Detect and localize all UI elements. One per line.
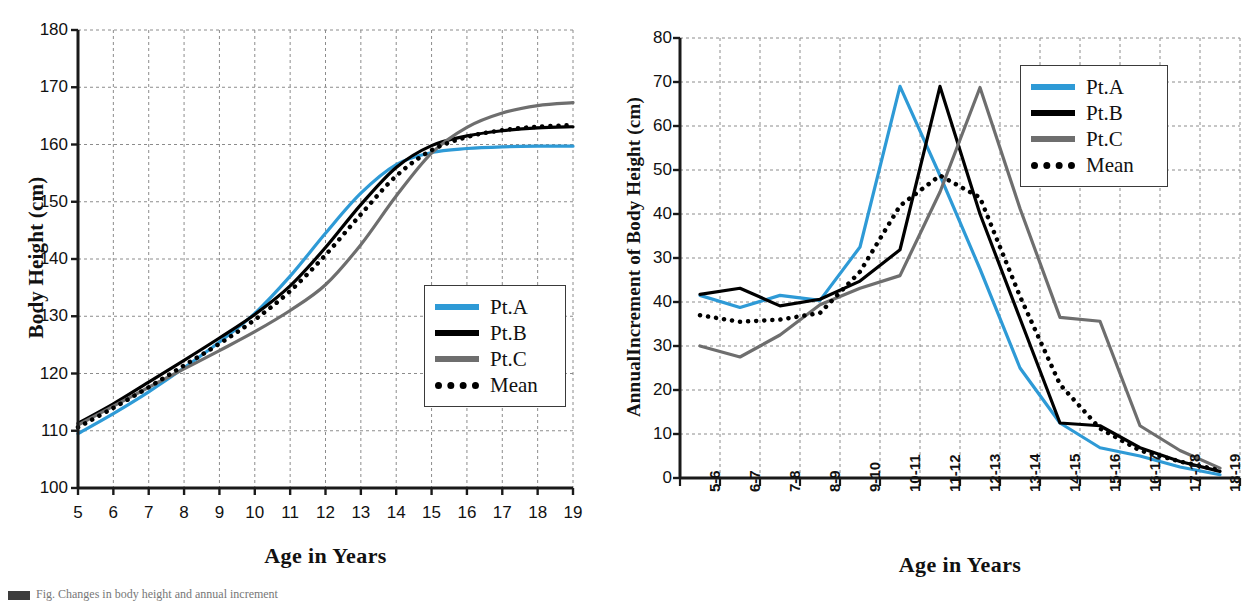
right-y-tick: 70 [626,73,672,90]
left-x-tick: 12 [308,504,344,521]
right-x-tick: 15-16 [1107,454,1122,492]
legend-label: Mean [1086,155,1134,176]
legend-label: Pt.C [1086,129,1123,150]
left-y-tick: 110 [20,422,68,439]
left-x-tick: 15 [414,504,450,521]
legend-item-mean: Mean [1031,152,1155,178]
left-x-tick: 13 [343,504,379,521]
right-x-tick: 12-13 [987,454,1002,492]
legend-item-ptc: Pt.C [435,346,553,372]
right-x-tick: 14-15 [1067,454,1082,492]
figure-caption: Fig. Changes in body height and annual i… [8,587,428,601]
left-y-tick: 180 [20,21,68,38]
right-x-tick: 7-8 [787,470,802,492]
left-x-tick: 5 [60,504,96,521]
left-y-tick: 170 [20,78,68,95]
legend-item-ptb: Pt.B [1031,100,1155,126]
left-legend: Pt.APt.BPt.CMean [424,285,566,407]
legend-label: Pt.B [1086,103,1123,124]
right-x-tick: 9-10 [867,462,882,492]
chart-annual-increment: AnnualIncrement of Body Height (cm) Age … [620,0,1259,601]
right-x-tick: 10-11 [907,454,922,492]
left-x-tick: 6 [95,504,131,521]
left-x-tick: 9 [201,504,237,521]
legend-label: Mean [490,375,538,396]
left-x-tick: 11 [272,504,308,521]
right-x-axis-title: Age in Years [680,552,1240,578]
right-x-tick: 17-18 [1187,454,1202,492]
right-y-tick: 20 [626,381,672,398]
legend-item-pta: Pt.A [1031,74,1155,100]
chart-body-height: Body Height (cm) Age in Years 1001101201… [0,0,620,601]
right-y-tick: 60 [626,117,672,134]
legend-label: Pt.C [490,349,527,370]
right-y-tick: 80 [626,29,672,46]
left-x-tick: 19 [555,504,591,521]
left-x-tick: 16 [449,504,485,521]
left-x-tick: 10 [237,504,273,521]
legend-item-ptb: Pt.B [435,320,553,346]
right-y-tick: 40 [626,205,672,222]
left-y-tick: 100 [20,479,68,496]
left-x-axis-title: Age in Years [78,543,573,569]
left-x-tick: 7 [131,504,167,521]
legend-item-pta: Pt.A [435,294,553,320]
caption-swatch [8,591,30,600]
left-y-tick: 150 [20,193,68,210]
left-y-tick: 130 [20,307,68,324]
right-y-tick: 40 [626,293,672,310]
right-y-tick: 0 [626,469,672,486]
legend-item-ptc: Pt.C [1031,126,1155,152]
right-x-tick: 5-6 [707,470,722,492]
legend-label: Pt.A [490,297,528,318]
right-x-tick: 18-19 [1227,454,1242,492]
right-x-tick: 16-17 [1147,454,1162,492]
right-x-tick: 13-14 [1027,454,1042,492]
left-x-tick: 8 [166,504,202,521]
right-x-tick: 6-7 [747,470,762,492]
left-y-tick: 160 [20,136,68,153]
right-legend: Pt.APt.BPt.CMean [1020,65,1168,187]
right-y-tick: 30 [626,337,672,354]
right-y-tick: 30 [626,249,672,266]
left-x-tick: 17 [484,504,520,521]
legend-item-mean: Mean [435,372,553,398]
legend-label: Pt.A [1086,77,1124,98]
left-x-tick: 14 [378,504,414,521]
legend-label: Pt.B [490,323,527,344]
right-y-tick: 10 [626,425,672,442]
right-y-tick: 50 [626,161,672,178]
left-y-tick: 140 [20,250,68,267]
caption-text: Fig. Changes in body height and annual i… [36,587,278,601]
figure-root: Body Height (cm) Age in Years 1001101201… [0,0,1259,601]
left-y-tick: 120 [20,365,68,382]
right-x-tick: 8-9 [827,470,842,492]
right-x-tick: 11-12 [947,454,962,492]
left-x-tick: 18 [520,504,556,521]
